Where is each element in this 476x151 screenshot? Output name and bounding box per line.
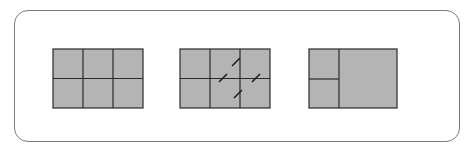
original-grid <box>53 49 143 108</box>
cell-merge-diagram <box>0 0 476 151</box>
marked-grid <box>180 49 270 108</box>
merged-grid <box>309 49 397 108</box>
